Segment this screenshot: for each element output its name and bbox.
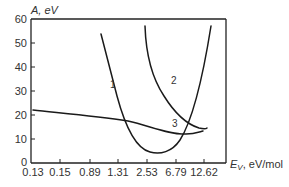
x-tick-6: 12.62	[190, 166, 218, 178]
curve-label-1: 1	[110, 79, 116, 90]
x-axis-title: EV, eV/mol	[230, 158, 283, 172]
x-tick-1: 0.15	[49, 166, 70, 178]
curve-1	[101, 26, 211, 153]
y-tick-60: 60	[15, 13, 27, 25]
x-tick-0: 0.13	[22, 166, 43, 178]
x-tick-2: 0.89	[79, 166, 100, 178]
curve-label-2: 2	[171, 75, 177, 86]
x-tick-4: 2.53	[136, 166, 157, 178]
y-axis-title: A, eV	[30, 4, 60, 16]
y-tick-40: 40	[15, 61, 27, 73]
x-tick-5: 6.79	[165, 166, 186, 178]
y-tick-50: 50	[15, 37, 27, 49]
curves	[33, 26, 211, 153]
plot-frame	[31, 19, 226, 163]
x-tick-labels: 0.13 0.15 0.89 1.31 2.53 6.79 12.62	[22, 166, 217, 178]
y-tick-20: 20	[15, 109, 27, 121]
y-tick-10: 10	[15, 133, 27, 145]
x-tick-3: 1.31	[107, 166, 128, 178]
y-tick-labels: 60 50 40 30 20 10 0	[15, 13, 27, 168]
curve-label-3: 3	[172, 118, 178, 129]
y-tick-30: 30	[15, 85, 27, 97]
chart: 60 50 40 30 20 10 0 0.13 0.15 0.89 1.31 …	[0, 0, 289, 187]
